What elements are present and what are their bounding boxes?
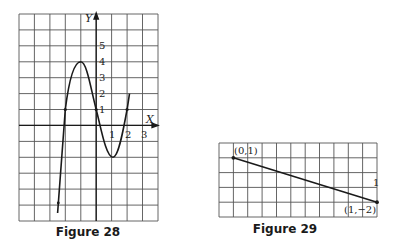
x-tick-2: 2: [125, 129, 131, 140]
figure-28-curve: [58, 62, 130, 213]
figure-29-caption: Figure 29: [253, 222, 317, 236]
point-start: [232, 156, 236, 160]
y-tick-2: 2: [99, 88, 105, 99]
y-tick-5: 5: [99, 40, 105, 51]
figure-28-points: [57, 108, 129, 205]
figure-28-caption: Figure 28: [56, 225, 120, 239]
figure-28-grid: [19, 14, 158, 221]
x-axis-label: X: [145, 113, 155, 126]
x-tick-3: 3: [141, 129, 147, 140]
point-label-start: (0,1): [234, 145, 258, 156]
figure-29: (0,1) (1,−2) 1 Figure 29: [219, 143, 379, 236]
point-label-end: (1,−2): [344, 204, 376, 215]
y-tick-4: 4: [99, 56, 105, 67]
figure-28-axes: [19, 13, 158, 221]
side-label: 1: [373, 177, 379, 188]
figure-28: Y X 1 2 3 4 5 1 2 3 Figure 28: [19, 12, 158, 239]
x-tick-1: 1: [109, 129, 115, 140]
y-tick-1: 1: [99, 104, 105, 115]
y-tick-3: 3: [99, 72, 105, 83]
page-canvas: Y X 1 2 3 4 5 1 2 3 Figure 28: [0, 0, 407, 249]
